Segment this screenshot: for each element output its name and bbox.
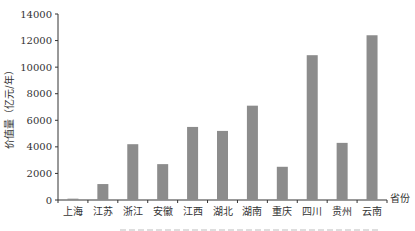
y-tick-label: 4000 [27, 141, 52, 152]
bar-湖北 [217, 131, 228, 200]
bar-湖南 [247, 106, 258, 200]
figure-caption-clipped [120, 224, 380, 231]
y-axis: 02000400060008000100001200014000 [20, 9, 58, 206]
x-axis: 上海江苏浙江安徽江西湖北湖南重庆四川贵州云南 [58, 200, 387, 217]
x-tick-label: 江西 [183, 206, 203, 217]
bar-chart: 02000400060008000100001200014000 上海江苏浙江安… [0, 0, 415, 231]
y-tick-label: 2000 [27, 168, 52, 179]
x-tick-label: 重庆 [272, 205, 292, 217]
x-tick-label: 湖南 [242, 205, 262, 217]
bar-四川 [307, 55, 318, 200]
y-tick-label: 6000 [27, 115, 52, 126]
y-axis-title: 价值量（亿元/年） [3, 65, 15, 148]
y-tick-label: 12000 [20, 35, 52, 46]
caption-fragment [120, 229, 380, 231]
x-tick-label: 云南 [362, 205, 382, 217]
x-tick-label: 上海 [63, 205, 83, 217]
bar-浙江 [127, 144, 138, 200]
bars [67, 35, 377, 200]
x-tick-label: 江苏 [93, 205, 113, 217]
bar-贵州 [337, 143, 348, 200]
y-tick-label: 0 [46, 195, 52, 206]
x-tick-label: 浙江 [123, 206, 143, 217]
bar-江苏 [97, 184, 108, 200]
y-tick-label: 10000 [20, 62, 52, 73]
bar-安徽 [157, 164, 168, 200]
bar-云南 [367, 35, 378, 200]
bar-重庆 [277, 167, 288, 200]
bar-上海 [67, 199, 78, 200]
y-tick-label: 14000 [20, 9, 52, 20]
y-tick-label: 8000 [27, 88, 52, 99]
x-tick-label: 四川 [302, 206, 322, 217]
x-tick-label: 湖北 [213, 206, 233, 217]
bar-江西 [187, 127, 198, 200]
x-tick-label: 贵州 [332, 205, 352, 217]
x-tick-label: 安徽 [153, 205, 173, 217]
x-axis-title: 省份 [390, 192, 410, 204]
